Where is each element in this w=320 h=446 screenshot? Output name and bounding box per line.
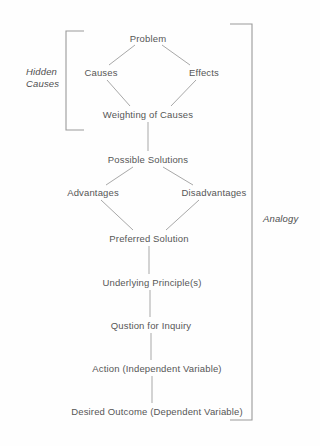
connector-problem-to-effects [162,45,190,65]
node-disadvantages: Disadvantages [180,187,249,198]
node-causes: Causes [82,67,119,78]
node-desired-outcome-dependent-variable: Desired Outcome (Dependent Variable) [69,406,245,417]
connector-possible-to-disadvantages [163,167,193,185]
node-preferred-solution: Preferred Solution [107,233,190,244]
node-advantages: Advantages [65,187,121,198]
group-label-hidden-causes-line2: Causes [26,78,59,90]
bracket-lines [66,24,252,420]
node-effects: Effects [187,67,221,78]
connector-effects-to-weighting [171,80,196,106]
connector-lines [101,45,199,403]
node-action-independent-variable: Action (Independent Variable) [90,363,223,374]
group-label-analogy: Analogy [263,213,298,225]
hidden-causes-bracket [66,31,84,130]
node-underlying-principles: Underlying Principle(s) [100,277,203,288]
connector-advantages-to-preferred [101,200,133,230]
node-weighting-of-causes: Weighting of Causes [101,109,195,120]
analogy-bracket [230,24,252,420]
connector-problem-to-causes [109,45,135,65]
node-problem: Problem [128,33,168,44]
group-label-hidden-causes-line1: Hidden [26,66,59,78]
connector-disadvantages-to-preferred [166,200,199,230]
connector-causes-to-weighting [107,80,130,106]
node-question-for-inquiry: Qustion for Inquiry [109,320,193,331]
node-possible-solutions: Possible Solutions [106,154,190,165]
diagram-canvas: Problem Causes Effects Weighting of Caus… [0,0,320,446]
group-label-hidden-causes: Hidden Causes [26,66,59,90]
connector-possible-to-advantages [106,167,133,185]
